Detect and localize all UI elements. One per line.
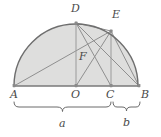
vertex-dot-E: [110, 30, 113, 33]
vertex-dot-C: [110, 84, 113, 87]
brace-a: [14, 102, 111, 112]
point-label-C: C: [106, 89, 114, 100]
length-label-b: b: [123, 117, 130, 128]
measurement-braces: [14, 102, 140, 112]
vertex-dot-A: [13, 84, 16, 87]
point-label-F: F: [79, 51, 87, 62]
point-label-E: E: [112, 9, 120, 20]
point-label-B: B: [141, 89, 149, 100]
vertex-dot-D: [75, 22, 78, 25]
figure-canvas: [0, 0, 161, 137]
point-label-D: D: [71, 3, 80, 14]
length-label-a: a: [59, 118, 66, 129]
point-label-O: O: [71, 89, 80, 100]
geometry-figure: A O C B D E F a b: [0, 0, 161, 137]
brace-b: [113, 102, 140, 111]
vertex-dot-B: [137, 84, 140, 87]
point-label-A: A: [10, 89, 18, 100]
vertex-dot-O: [75, 84, 78, 87]
